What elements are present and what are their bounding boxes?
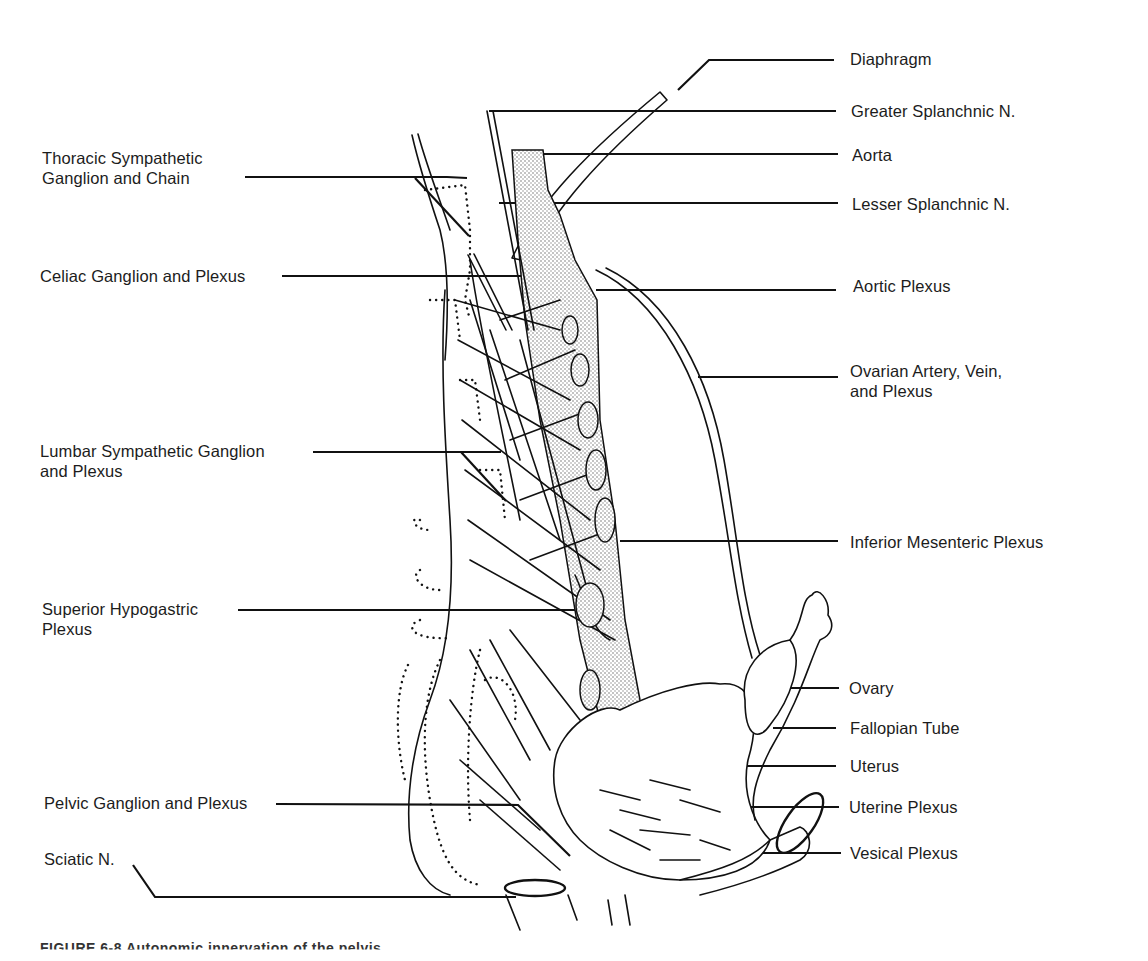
leader-sciatic — [133, 865, 516, 897]
label-uterus: Uterus — [850, 756, 899, 776]
label-inferior-mesenteric: Inferior Mesenteric Plexus — [850, 532, 1043, 552]
label-pelvic-ganglion: Pelvic Ganglion and Plexus — [44, 793, 247, 813]
label-thoracic-sympathetic: Thoracic Sympathetic Ganglion and Chain — [42, 148, 203, 188]
label-greater-splanchnic: Greater Splanchnic N. — [851, 101, 1015, 121]
leader-lumbar-branch — [461, 452, 506, 501]
label-lumbar-sympathetic: Lumbar Sympathetic Ganglion and Plexus — [40, 441, 265, 481]
label-fallopian-tube: Fallopian Tube — [850, 718, 960, 738]
label-vesical-plexus: Vesical Plexus — [850, 843, 958, 863]
leader-diaphragm — [678, 60, 834, 90]
label-sciatic-nerve: Sciatic N. — [44, 849, 115, 869]
label-celiac-ganglion: Celiac Ganglion and Plexus — [40, 266, 245, 286]
leader-pelvic — [276, 804, 570, 856]
label-aortic-plexus: Aortic Plexus — [853, 276, 951, 296]
label-uterine-plexus: Uterine Plexus — [849, 797, 958, 817]
label-ovarian-vessels: Ovarian Artery, Vein, and Plexus — [850, 361, 1002, 401]
label-lesser-splanchnic: Lesser Splanchnic N. — [852, 194, 1010, 214]
label-aorta: Aorta — [852, 145, 892, 165]
label-superior-hypogastric: Superior Hypogastric Plexus — [42, 599, 198, 639]
label-ovary: Ovary — [849, 678, 894, 698]
label-diaphragm: Diaphragm — [850, 49, 932, 69]
leader-thoracic — [245, 177, 467, 178]
